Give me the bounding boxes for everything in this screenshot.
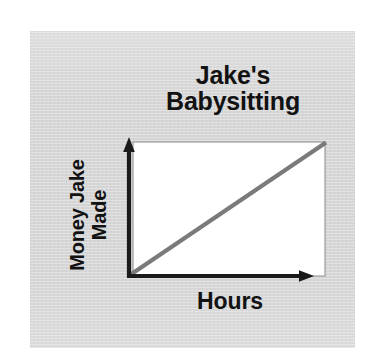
y-axis-label: Money Jake Made — [66, 140, 110, 290]
y-axis-label-line-1: Money Jake — [66, 140, 88, 290]
chart-title: Jake's Babysitting — [118, 62, 348, 114]
chart-title-line-1: Jake's — [118, 62, 348, 88]
chart-title-line-2: Babysitting — [118, 88, 348, 114]
y-axis-label-line-2: Made — [88, 140, 110, 290]
x-axis-label: Hours — [135, 288, 325, 314]
y-axis-label-wrap: Money Jake Made — [66, 140, 110, 290]
